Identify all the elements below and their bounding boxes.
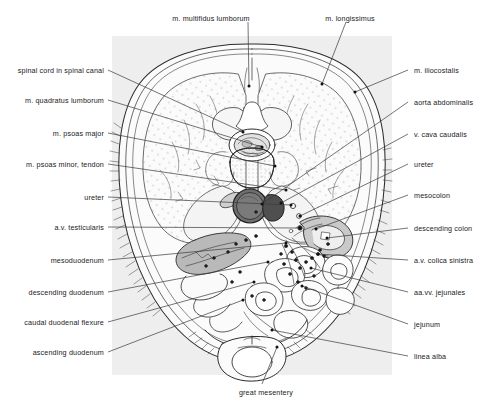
label-great-mesentery: great mesentery bbox=[221, 388, 311, 397]
label-aa-vv-jejunales: aa.vv. jejunales bbox=[414, 288, 465, 297]
label-av-testicularis: a.v. testicularis bbox=[0, 223, 104, 232]
label-ascending-duodenum: ascending duodenum bbox=[0, 348, 104, 357]
label-m-quadratus-lumborum: m. quadratus lumborum bbox=[0, 96, 104, 105]
label-av-colica-sinistra: a.v. colica sinistra bbox=[414, 256, 473, 265]
label-jejunum: jejunum bbox=[414, 320, 440, 329]
illustration-plate bbox=[112, 36, 392, 375]
label-mesoduodenum: mesoduodenum bbox=[0, 256, 104, 265]
label-linea-alba: linea alba bbox=[414, 352, 446, 361]
label-descending-duodenum: descending duodenum bbox=[0, 288, 104, 297]
anatomical-figure: m. multifidus lumborumm. longissimusspin… bbox=[0, 0, 480, 408]
label-spinal-cord-in-spinal-canal: spinal cord in spinal canal bbox=[0, 66, 104, 75]
label-m-psoas-minor-tendon: m. psoas minor, tendon bbox=[0, 160, 104, 169]
label-descending-colon: descending colon bbox=[414, 224, 472, 233]
label-v-cava-caudalis: v. cava caudalis bbox=[414, 130, 467, 139]
label-m-multifidus-lumborum: m. multifidus lumborum bbox=[166, 14, 256, 23]
label-aorta-abdominalis: aorta abdominalis bbox=[414, 98, 473, 107]
label-m-iliocostalis: m. iliocostalis bbox=[414, 66, 459, 75]
label-mesocolon: mesocolon bbox=[414, 191, 450, 200]
label-m-longissimus: m. longissimus bbox=[305, 14, 395, 23]
label-ureter-right: ureter bbox=[414, 160, 434, 169]
label-m-psoas-major: m. psoas major bbox=[0, 129, 104, 138]
label-ureter-left: ureter bbox=[0, 193, 104, 202]
label-caudal-duodenal-flexure: caudal duodenal flexure bbox=[0, 318, 104, 327]
